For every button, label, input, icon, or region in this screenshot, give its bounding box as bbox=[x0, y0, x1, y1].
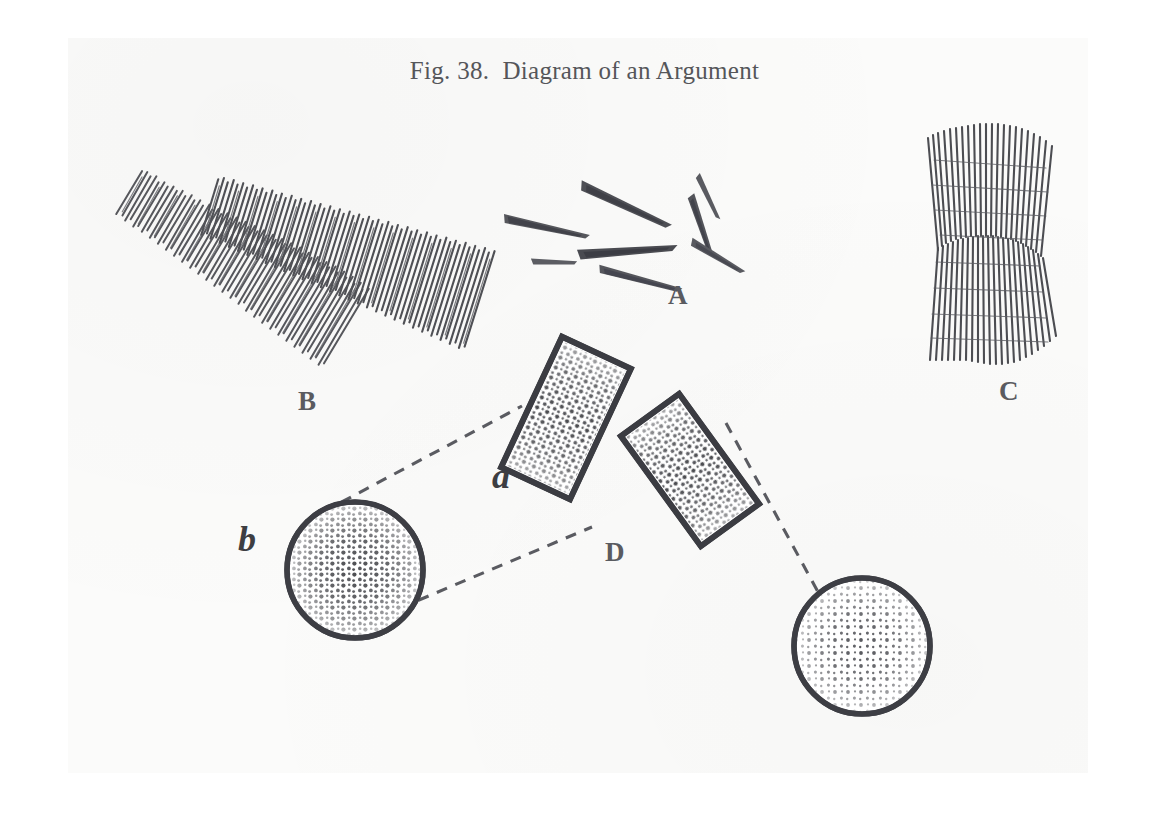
dashed-lower-b-to-a bbox=[400, 527, 592, 608]
splinter bbox=[687, 238, 748, 275]
splinter bbox=[531, 255, 578, 267]
diagram-part-A bbox=[502, 173, 749, 292]
label-b-lowercase: b bbox=[238, 521, 256, 557]
left-stippled-circle bbox=[287, 502, 423, 638]
label-b-uppercase: B bbox=[298, 388, 316, 415]
label-a-lowercase: a bbox=[492, 458, 510, 494]
diagram-part-C bbox=[928, 124, 1056, 364]
diagram-canvas bbox=[0, 0, 1169, 817]
label-a-uppercase: A bbox=[668, 282, 688, 309]
right-stippled-rectangle bbox=[621, 394, 759, 546]
diagram-part-D bbox=[501, 337, 759, 546]
splinter bbox=[576, 180, 675, 229]
left-stippled-rectangle bbox=[501, 337, 631, 500]
splinter bbox=[577, 234, 678, 265]
splinter bbox=[502, 214, 591, 239]
label-c-uppercase: C bbox=[999, 378, 1019, 405]
figure-root: Fig. 38. Diagram of an Argument bbox=[0, 0, 1169, 817]
diagram-part-B bbox=[103, 156, 495, 367]
label-d-uppercase: D bbox=[605, 539, 625, 566]
right-stippled-circle bbox=[794, 578, 930, 714]
